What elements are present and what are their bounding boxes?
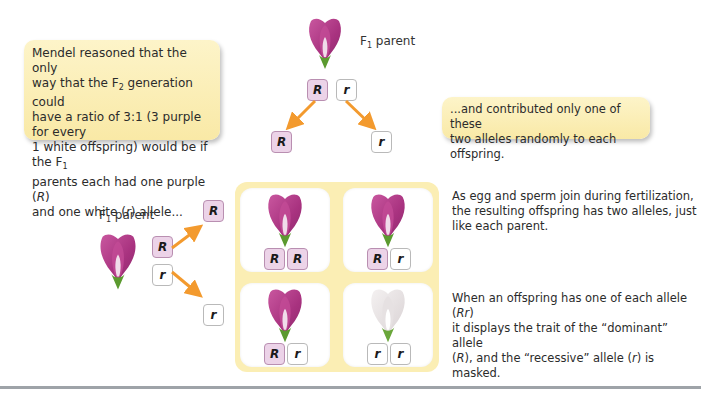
bottom-divider [0,386,701,389]
offspring-allele: R [264,248,285,270]
punnett-cell-RR: R R [240,188,330,272]
callout-random-contribution: ...and contributed only one of these two… [442,97,650,139]
desc-line: the resulting offspring has two alleles,… [452,204,697,219]
desc-line: (R), and the “recessive” allele (r) is m… [452,351,701,381]
callout-line: Mendel reasoned that the only [32,46,212,76]
offspring-allele: R [367,248,388,270]
callout-line: have a ratio of 3:1 (3 purple for every [32,110,212,140]
offspring-purple-flower-icon [264,190,306,250]
offspring-purple-flower-icon [367,190,409,250]
top-parent-purple-flower-icon [305,12,345,74]
offspring-allele: r [287,343,308,365]
callout-line: two alleles randomly to each offspring. [450,132,642,162]
top-parent-label: F1 parent [360,34,415,50]
punnett-cell-Rr-bottom: R r [240,283,330,367]
punnett-cell-rr: r r [343,283,433,367]
callout-line: way that the F2 generation could [32,76,212,110]
callout-line: 1 white offspring) would be if the F1 [32,140,212,174]
top-gamete-dominant: R [271,131,292,153]
offspring-allele: r [390,248,411,270]
offspring-white-flower-icon [367,285,409,345]
offspring-allele: R [287,248,308,270]
desc-line: As egg and sperm join during fertilizati… [452,189,697,204]
top-gamete-recessive: r [371,131,392,153]
desc-line: like each parent. [452,219,697,234]
offspring-allele: r [367,343,388,365]
dominance-description: When an offspring has one of each allele… [452,291,701,381]
callout-line: ...and contributed only one of these [450,102,642,132]
top-gamete-arrows-icon [270,98,390,132]
offspring-allele: R [264,343,285,365]
left-parent-purple-flower-icon [96,230,140,292]
callout-line: parents each had one purple (R) [32,175,212,205]
offspring-purple-flower-icon [264,285,306,345]
left-gamete-recessive: r [203,304,224,326]
punnett-cell-Rr-top: R r [343,188,433,272]
left-parent-label: F1 parent [99,208,154,224]
left-gamete-dominant: R [203,200,224,222]
callout-mendel-reasoning: Mendel reasoned that the only way that t… [24,40,220,140]
desc-line: it displays the trait of the “dominant” … [452,321,701,351]
left-gamete-arrows-icon [170,212,204,312]
offspring-allele: r [390,343,411,365]
fertilization-description: As egg and sperm join during fertilizati… [452,189,697,234]
desc-line: When an offspring has one of each allele… [452,291,701,321]
